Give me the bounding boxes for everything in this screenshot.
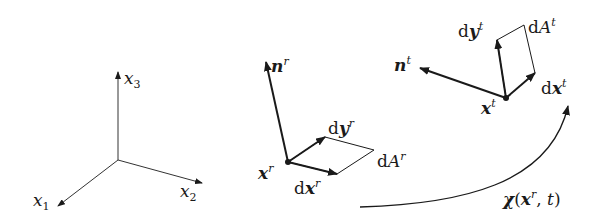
label-dx-reference: dxr [294, 178, 320, 197]
reference-configuration [266, 62, 374, 174]
deformation-diagram: x3 x2 x1 nr dyr dAr xr dxr nt dyt dAt xt… [0, 0, 609, 220]
label-dy-current: dyt [458, 21, 483, 40]
label-dy-reference: dyr [328, 118, 354, 137]
dx-vector-current [506, 73, 535, 98]
label-x1: x1 [33, 192, 50, 212]
label-normal-current: nt [394, 55, 411, 74]
dy-vector-reference [288, 137, 325, 162]
dx-vector-reference [288, 162, 337, 174]
point-current [503, 95, 509, 101]
label-x2: x2 [180, 183, 197, 203]
area-element-reference [288, 137, 374, 174]
axis-x1 [58, 160, 118, 206]
label-dx-current: dxt [541, 78, 566, 97]
dy-vector-current [497, 40, 506, 98]
normal-vector-current [420, 68, 506, 98]
label-x3: x3 [124, 70, 141, 90]
axis-x2 [118, 160, 202, 183]
point-reference [285, 159, 291, 165]
label-area-current: dAt [528, 17, 556, 36]
label-point-current: xt [481, 98, 496, 117]
label-mapping: χ(xr, t) [503, 189, 561, 208]
normal-vector-reference [266, 62, 288, 162]
label-normal-reference: nr [271, 56, 289, 75]
label-area-reference: dAr [377, 151, 405, 170]
label-point-reference: xr [258, 163, 273, 182]
